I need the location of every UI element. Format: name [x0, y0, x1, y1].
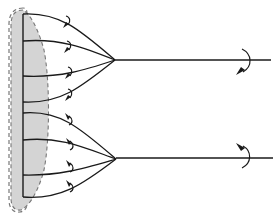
- upper-rotation-arrow-icon: [236, 49, 250, 75]
- fiber-bundle-diagram: [0, 0, 278, 215]
- lower-bundle: [23, 113, 273, 198]
- curl-arrow-icon: [66, 138, 73, 150]
- upper-small-arrows: [63, 16, 72, 101]
- lower-rotation-arrow-icon: [236, 143, 250, 168]
- curl-arrow-icon: [66, 160, 73, 172]
- curl-arrow-icon: [65, 89, 72, 101]
- upper-bundle: [23, 14, 271, 102]
